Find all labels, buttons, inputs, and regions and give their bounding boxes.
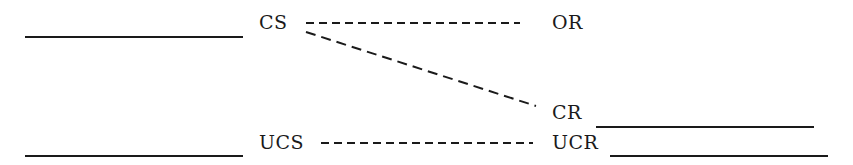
cs-to-cr-connector <box>306 32 536 106</box>
cr-label: CR <box>552 103 582 122</box>
or-label: OR <box>552 13 583 32</box>
diagram-lines <box>0 0 853 165</box>
ucs-label: UCS <box>259 133 304 152</box>
cs-label: CS <box>259 13 288 32</box>
ucr-label: UCR <box>552 133 598 152</box>
